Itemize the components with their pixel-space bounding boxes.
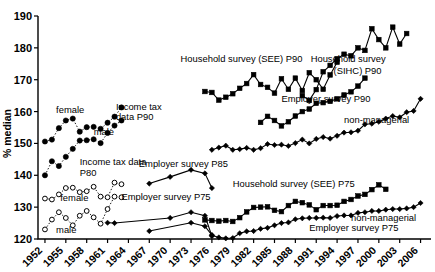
annot-female-top: female (56, 104, 84, 115)
series-7-point (258, 82, 263, 87)
series-1-point (63, 154, 68, 159)
series-10-point (265, 141, 270, 146)
series-11-point (349, 197, 354, 202)
series-12-point (223, 236, 228, 241)
series-8-point (363, 48, 368, 53)
series-10-point (411, 108, 416, 113)
series-7-point (272, 91, 277, 96)
annot-income-tax-p80-1: Income tax data (80, 156, 147, 167)
series-10-point (300, 137, 305, 142)
series-10-point (237, 147, 242, 152)
series-0-point (42, 139, 47, 144)
series-8-point (404, 31, 409, 36)
series-4-point (168, 174, 173, 179)
annot-male-top: male (94, 126, 114, 137)
series-8-point (321, 69, 326, 74)
series-7-point (279, 76, 284, 81)
series-12-point (307, 215, 312, 220)
series-12-point (321, 215, 326, 220)
series-9-point (265, 114, 270, 119)
series-0-point (56, 126, 61, 131)
series-10-point (251, 147, 256, 152)
series-12-point (314, 215, 319, 220)
series-12-point (265, 225, 270, 230)
series-12-point (411, 205, 416, 210)
series-12-point (397, 206, 402, 211)
x-tick-label-1970: 1970 (145, 244, 170, 269)
series-3-point (77, 213, 82, 218)
series-8-point (383, 46, 388, 51)
x-tick-label-1973: 1973 (165, 244, 190, 269)
series-12-point (334, 213, 339, 218)
series-11-point (237, 215, 242, 220)
series-2-point (98, 194, 103, 199)
series-11-point (293, 199, 298, 204)
series-5-point (105, 220, 110, 225)
series-2-point (119, 182, 124, 187)
series-11-point (370, 187, 375, 192)
series-7-point (244, 81, 249, 86)
series-12-point (244, 229, 249, 234)
x-tick-label-1967: 1967 (124, 244, 149, 269)
chart-figure: 120130140150160170180190% median19521955… (0, 0, 435, 272)
series-5-point (168, 215, 173, 220)
series-0-point (63, 118, 68, 123)
series-3-point (91, 215, 96, 220)
series-9-point (286, 119, 291, 124)
series-9-point (363, 76, 368, 81)
annot-household-see-p90: Household survey (SEE) P90 (181, 53, 303, 64)
series-7-point (210, 90, 215, 95)
series-11-point (363, 192, 368, 197)
series-11-point (224, 218, 229, 223)
x-tick-label-1988: 1988 (270, 244, 295, 269)
series-11-point (342, 199, 347, 204)
series-12-point (272, 223, 277, 228)
series-11-point (356, 194, 361, 199)
series-3-point (84, 209, 89, 214)
series-8-point (390, 25, 395, 30)
series-7-point (224, 95, 229, 100)
series-7-point (307, 70, 312, 75)
annot-employer-p90: Employer survey P90 (281, 93, 370, 104)
series-10-point (418, 96, 423, 101)
series-8-point (397, 42, 402, 47)
series-7-point (314, 77, 319, 82)
x-tick-label-1952: 1952 (19, 244, 44, 269)
series-11-point (321, 203, 326, 208)
series-7-point (321, 87, 326, 92)
y-tick-label-180: 180 (14, 42, 32, 54)
series-7-point (328, 73, 333, 78)
series-9-point (356, 84, 361, 89)
series-7-point (203, 89, 208, 94)
series-11-point (328, 203, 333, 208)
series-3-point (63, 216, 68, 221)
series-11-point (272, 208, 277, 213)
series-11-point (251, 205, 256, 210)
x-tick-label-1997: 1997 (332, 244, 357, 269)
series-6-line (149, 223, 212, 235)
series-10-point (341, 130, 346, 135)
series-2-point (112, 180, 117, 185)
series-3-point (56, 210, 61, 215)
series-11-point (230, 219, 235, 224)
series-12-point (286, 220, 291, 225)
series-6-point (147, 228, 152, 233)
series-1-point (77, 138, 82, 143)
y-tick-label-130: 130 (14, 201, 32, 213)
series-11-point (258, 205, 263, 210)
annot-nonmanagerial-top: non-managerial (344, 114, 409, 125)
x-tick-label-1979: 1979 (207, 244, 232, 269)
series-12-point (279, 220, 284, 225)
series-3-point (98, 221, 103, 226)
series-2-point (63, 186, 68, 191)
annot-household-sihc-p90-1: Household survey (311, 53, 386, 64)
series-1-point (42, 173, 47, 178)
annot-household-see-p75: Household survey (SEE) P75 (233, 178, 355, 189)
x-tick-label-1961: 1961 (82, 244, 107, 269)
series-12-point (341, 213, 346, 218)
series-10-point (279, 142, 284, 147)
series-11-point (335, 203, 340, 208)
series-9-point (279, 124, 284, 129)
annot-employer-p75-left: Employer survey P75 (121, 191, 210, 202)
series-8-point (356, 46, 361, 51)
